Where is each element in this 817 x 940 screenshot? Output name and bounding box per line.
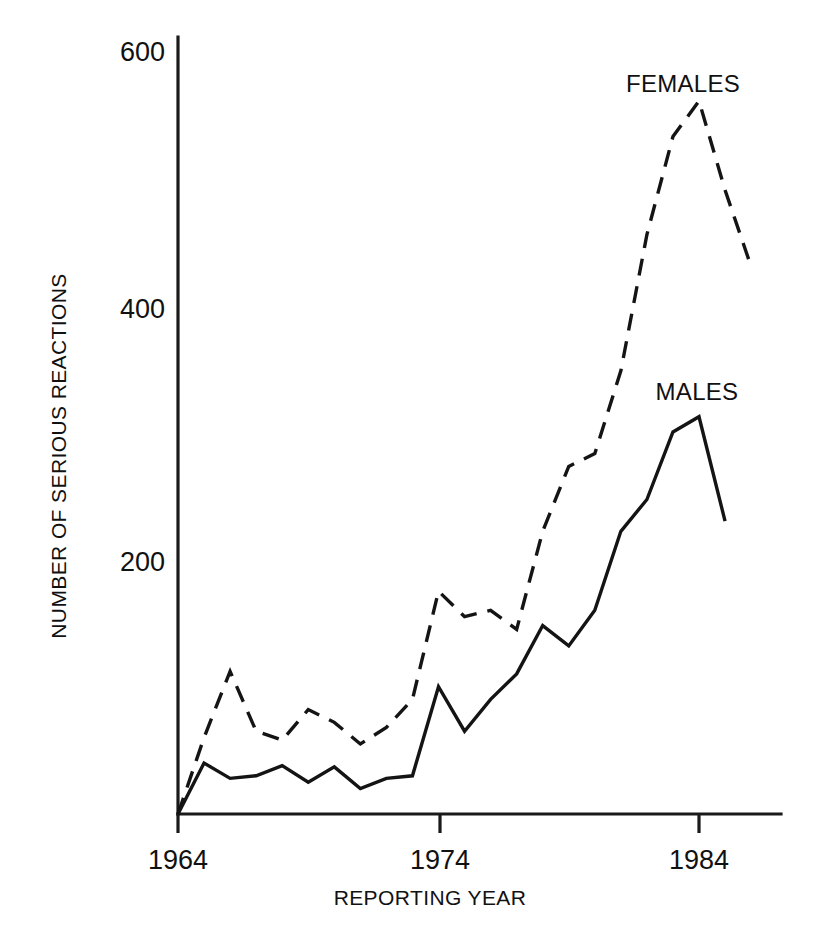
x-tick-label-1964: 1964 (148, 845, 208, 875)
y-tick-label-400: 400 (120, 294, 165, 324)
x-tick-marks (178, 814, 699, 833)
series-line-males (178, 417, 725, 814)
y-tick-label-600: 600 (120, 37, 165, 67)
axes-group (178, 37, 781, 814)
series-line-females (178, 101, 751, 814)
x-tick-label-1984: 1984 (669, 845, 729, 875)
series-group (178, 101, 751, 814)
series-annotation-females: FEMALES (626, 70, 740, 97)
series-annotation-males: MALES (656, 378, 739, 405)
line-chart-canvas: 600 400 200 1964 1974 1984 NUMBER OF SER… (0, 0, 817, 940)
x-axis-title: REPORTING YEAR (334, 886, 527, 909)
chart-figure: 600 400 200 1964 1974 1984 NUMBER OF SER… (0, 0, 817, 940)
y-axis-title: NUMBER OF SERIOUS REACTIONS (47, 273, 70, 639)
x-tick-label-1974: 1974 (410, 845, 470, 875)
y-tick-label-200: 200 (120, 547, 165, 577)
